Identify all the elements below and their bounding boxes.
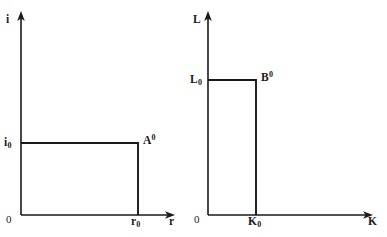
left-point-sup: 0 xyxy=(152,133,156,142)
left-y-tick-sub: 0 xyxy=(7,141,11,150)
left-origin-label: 0 xyxy=(6,214,12,225)
right-point-sup: 0 xyxy=(269,70,273,79)
left-isoquant-path xyxy=(21,143,138,215)
right-x-tick-base: K xyxy=(248,215,257,227)
right-y-tick-base: L xyxy=(190,73,198,85)
left-x-tick-r0: r0 xyxy=(131,216,141,229)
right-y-tick-sub: 0 xyxy=(198,78,202,87)
right-isoquant-path xyxy=(208,80,256,215)
right-panel-plot xyxy=(208,80,256,215)
right-origin-label: 0 xyxy=(194,214,200,225)
left-panel-plot xyxy=(21,143,138,215)
right-point-base: B xyxy=(261,71,269,83)
figure-canvas: i r 0 i0 r0 A0 L K 0 L0 K0 B0 xyxy=(0,0,387,237)
right-panel-axes xyxy=(204,11,373,219)
right-y-axis-label: L xyxy=(193,14,201,26)
right-x-axis-label: K xyxy=(368,216,377,228)
left-point-label-A0: A0 xyxy=(143,134,156,146)
left-y-axis-label: i xyxy=(6,14,9,26)
diagram-svg xyxy=(0,0,387,237)
right-x-tick-sub: 0 xyxy=(257,220,261,229)
left-point-base: A xyxy=(143,134,152,146)
left-x-tick-sub: 0 xyxy=(136,220,140,229)
right-x-tick-K0: K0 xyxy=(248,216,261,229)
left-x-axis-label: r xyxy=(169,216,174,228)
left-y-tick-i0: i0 xyxy=(4,137,12,150)
right-point-label-B0: B0 xyxy=(261,71,273,83)
right-y-tick-L0: L0 xyxy=(190,74,202,87)
left-panel-axes xyxy=(17,11,175,219)
